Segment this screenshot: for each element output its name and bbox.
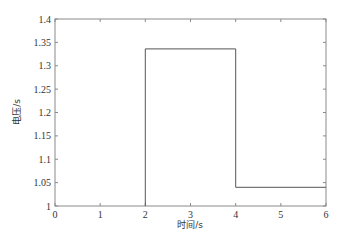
x-tick-label: 6: [324, 209, 329, 220]
y-tick-label: 1.4: [39, 14, 52, 25]
plot-frame: [55, 19, 326, 206]
y-tick-label: 1.1: [39, 154, 52, 165]
x-tick-label: 2: [143, 209, 148, 220]
axis-ticks: [55, 19, 326, 206]
y-tick-label: 1.3: [39, 60, 52, 71]
x-tick-label: 5: [278, 209, 283, 220]
step-chart: 0123456 11.051.11.151.21.251.31.351.4 时间…: [0, 0, 338, 245]
y-tick-label: 1.2: [39, 107, 52, 118]
x-tick-label: 4: [233, 209, 238, 220]
x-tick-label: 0: [53, 209, 58, 220]
y-tick-label: 1: [46, 201, 51, 212]
x-tick-label: 1: [98, 209, 103, 220]
y-axis-label: 电压/s: [11, 99, 22, 125]
y-tick-label: 1.05: [34, 177, 52, 188]
y-tick-labels: 11.051.11.151.21.251.31.351.4: [34, 14, 52, 212]
x-axis-label: 时间/s: [177, 219, 203, 230]
x-tick-labels: 0123456: [53, 209, 329, 220]
y-tick-label: 1.25: [34, 84, 52, 95]
x-tick-label: 3: [188, 209, 193, 220]
y-tick-label: 1.35: [34, 37, 52, 48]
voltage-series-line: [145, 49, 326, 206]
y-tick-label: 1.15: [34, 130, 52, 141]
